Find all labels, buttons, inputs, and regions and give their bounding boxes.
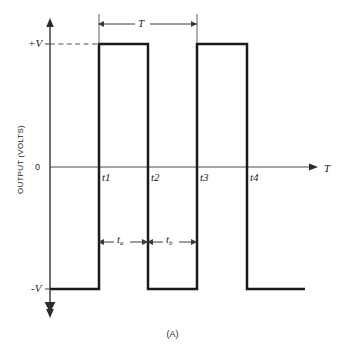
waveform-figure: OUTPUT (VOLTS) +V 0 -V t1 t2 t3 t4 T T t… (0, 0, 345, 355)
y-tick-label-zero: 0 (35, 163, 40, 172)
y-tick-label-minus-v: -V (31, 283, 41, 294)
time-mark-label-t1: t1 (102, 172, 111, 183)
period-dimension-label: T (138, 18, 144, 29)
y-axis-title: OUTPUT (VOLTS) (16, 110, 25, 210)
x-axis-arrow (309, 163, 318, 170)
time-mark-label-t4: t4 (250, 172, 259, 183)
y-axis-arrow-down (46, 309, 54, 318)
time-mark-label-t2: t2 (151, 172, 160, 183)
y-tick-label-plus-v: +V (28, 38, 42, 49)
y-axis-arrow-up (46, 18, 54, 27)
figure-caption: (A) (0, 330, 345, 339)
ta-subscript: a (120, 239, 124, 247)
tb-subscript: b (169, 239, 173, 247)
waveform-canvas (0, 0, 345, 355)
time-mark-label-t3: t3 (200, 172, 209, 183)
ta-dimension-label: ta (117, 234, 124, 247)
tb-dimension-label: tb (166, 234, 173, 247)
x-axis-label: T (324, 163, 330, 174)
